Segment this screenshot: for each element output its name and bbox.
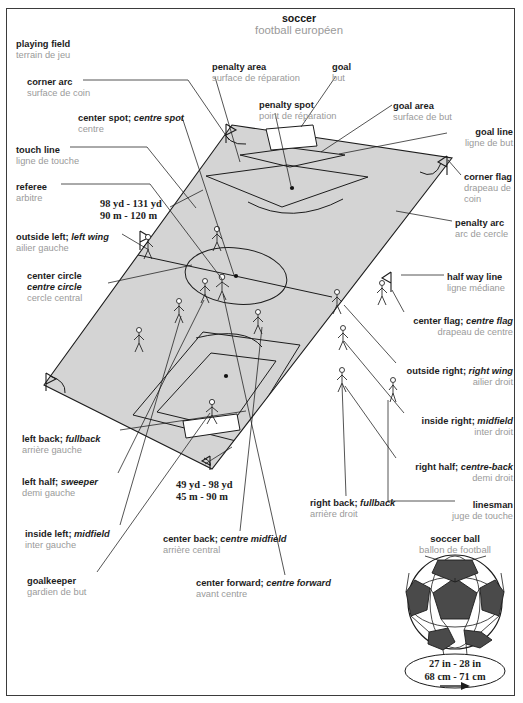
label-penalty-arc-english: penalty arc — [455, 218, 508, 229]
top-penalty-spot — [290, 186, 294, 190]
label-penalty-spot-english: penalty spot — [259, 100, 337, 111]
label-penalty-area: penalty areasurface de réparation — [212, 62, 300, 84]
label-outside-right-french: ailier droit — [407, 377, 513, 388]
label-penalty-spot-french: point de réparation — [259, 111, 337, 122]
leader-outside-right — [344, 305, 396, 363]
measurement-field-length-yards: 98 yd - 131 yd — [100, 198, 162, 210]
label-outside-left-french: ailier gauche — [16, 243, 109, 254]
label-center-flag-french: drapeau de centre — [413, 327, 513, 338]
label-referee: refereearbitre — [16, 182, 47, 204]
label-left-back: left back; fullbackarrière gauche — [22, 434, 101, 456]
label-linesman: linesmanjuge de touche — [452, 500, 513, 522]
label-half-way-line-french: ligne médiane — [447, 283, 505, 294]
measurement-field-length: 98 yd - 131 yd90 m - 120 m — [100, 198, 162, 223]
label-inside-right: inside right; midfieldinter droit — [422, 416, 513, 438]
label-center-forward: center forward; centre forwardavant cent… — [196, 578, 331, 600]
diagram-page: SPORTS GAMES — [0, 0, 523, 703]
label-left-half: left half; sweeperdemi gauche — [22, 477, 98, 499]
label-penalty-arc: penalty arcarc de cercle — [455, 218, 508, 240]
measurement-field-length-meters: 90 m - 120 m — [100, 210, 162, 222]
label-corner-flag-french: drapeau decoin — [464, 183, 512, 205]
label-penalty-arc-french: arc de cercle — [455, 229, 508, 240]
label-goal-line: goal lineligne de but — [465, 127, 513, 149]
label-right-back: right back; fullbackarrière droit — [310, 498, 395, 520]
label-outside-left-english: outside left; left wing — [16, 232, 109, 243]
ball-dimension-inches: 27 in - 28 in — [405, 658, 505, 671]
ball-caption-french: ballon de football — [389, 544, 521, 555]
label-touch-line-english: touch line — [16, 145, 79, 156]
label-referee-french: arbitre — [16, 193, 47, 204]
label-referee-english: referee — [16, 182, 47, 193]
label-center-circle-english: center circlecentre circle — [27, 271, 82, 293]
label-corner-arc-french: surface de coin — [27, 88, 90, 99]
label-right-back-english: right back; fullback — [310, 498, 395, 509]
label-playing-field-french: terrain de jeu — [16, 50, 70, 61]
player-figure — [377, 281, 387, 306]
label-inside-left: inside left; midfieldinter gauche — [25, 529, 110, 551]
top-goal-net — [266, 125, 317, 150]
label-center-spot: center spot; centre spotcentre — [78, 113, 184, 135]
label-goal-area: goal areasurface de but — [393, 101, 452, 123]
label-right-half: right half; centre-backdemi droit — [415, 462, 513, 484]
label-half-way-line: half way lineligne médiane — [447, 272, 505, 294]
ball-dimensions: 27 in - 28 in 68 cm - 71 cm — [405, 658, 505, 683]
player-figure-linesman — [389, 378, 397, 403]
label-center-circle-french: cercle central — [27, 293, 82, 304]
center-spot-mark — [234, 274, 238, 278]
label-inside-right-english: inside right; midfield — [422, 416, 513, 427]
label-left-back-english: left back; fullback — [22, 434, 101, 445]
label-inside-left-english: inside left; midfield — [25, 529, 110, 540]
label-left-half-english: left half; sweeper — [22, 477, 98, 488]
label-center-back: center back; centre midfieldarrière cent… — [163, 534, 287, 556]
label-inside-right-french: inter droit — [422, 427, 513, 438]
label-corner-flag: corner flagdrapeau decoin — [464, 172, 512, 206]
label-left-half-french: demi gauche — [22, 488, 98, 499]
label-right-back-french: arrière droit — [310, 509, 395, 520]
label-goal-line-french: ligne de but — [465, 138, 513, 149]
label-corner-arc: corner arcsurface de coin — [27, 77, 90, 99]
label-goalkeeper: goalkeepergardien de but — [27, 576, 86, 598]
label-penalty-area-french: surface de réparation — [212, 73, 300, 84]
measurement-field-width-yards: 49 yd - 98 yd — [176, 479, 233, 491]
label-corner-flag-english: corner flag — [464, 172, 512, 183]
measurement-field-width-meters: 45 m - 90 m — [176, 491, 233, 503]
label-penalty-spot: penalty spotpoint de réparation — [259, 100, 337, 122]
label-linesman-french: juge de touche — [452, 511, 513, 522]
label-goal-french: but — [332, 73, 351, 84]
leader-center-flag — [392, 290, 404, 312]
label-center-circle: center circlecentre circlecercle central — [27, 271, 82, 305]
label-goal-area-english: goal area — [393, 101, 452, 112]
leader-outside-left — [122, 234, 149, 250]
ball-caption-english: soccer ball — [389, 533, 521, 544]
label-left-back-french: arrière gauche — [22, 445, 101, 456]
playing-field-surface — [44, 125, 452, 469]
label-outside-right: outside right; right wingailier droit — [407, 366, 513, 388]
label-goalkeeper-english: goalkeeper — [27, 576, 86, 587]
label-goal: goalbut — [332, 62, 351, 84]
label-playing-field-english: playing field — [16, 39, 70, 50]
label-center-spot-french: centre — [78, 124, 184, 135]
label-linesman-english: linesman — [452, 500, 513, 511]
label-outside-right-english: outside right; right wing — [407, 366, 513, 377]
label-center-back-english: center back; centre midfield — [163, 534, 287, 545]
label-goalkeeper-french: gardien de but — [27, 587, 86, 598]
title-french: football européen — [219, 24, 379, 36]
label-touch-line-french: ligne de touche — [16, 156, 79, 167]
label-center-flag: center flag; centre flagdrapeau de centr… — [413, 316, 513, 338]
label-outside-left: outside left; left wingailier gauche — [16, 232, 109, 254]
label-right-half-french: demi droit — [415, 473, 513, 484]
leader-corner-flag — [448, 160, 461, 175]
label-center-forward-english: center forward; centre forward — [196, 578, 331, 589]
label-center-back-french: arrière central — [163, 545, 287, 556]
measurement-field-width: 49 yd - 98 yd45 m - 90 m — [176, 479, 233, 504]
leader-right-back — [342, 384, 346, 496]
label-goal-english: goal — [332, 62, 351, 73]
label-center-spot-english: center spot; centre spot — [78, 113, 184, 124]
bottom-penalty-spot — [224, 374, 228, 378]
leader-inside-right — [344, 341, 404, 413]
label-center-forward-french: avant centre — [196, 589, 331, 600]
label-touch-line: touch lineligne de touche — [16, 145, 79, 167]
label-penalty-area-english: penalty area — [212, 62, 300, 73]
page-title: soccer football européen — [219, 12, 379, 36]
ball-dimension-cm: 68 cm - 71 cm — [405, 671, 505, 684]
